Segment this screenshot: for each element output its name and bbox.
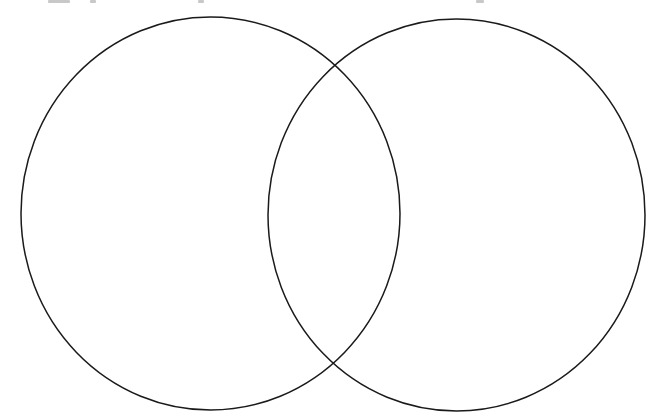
venn-diagram <box>0 0 662 419</box>
venn-circle-left <box>21 17 400 410</box>
venn-circle-right <box>268 19 645 411</box>
clipped-text-fragment <box>90 0 96 3</box>
clipped-text-fragment <box>48 0 70 3</box>
clipped-text-fragments <box>0 0 662 6</box>
clipped-text-fragment <box>476 0 484 3</box>
clipped-text-fragment <box>198 0 204 3</box>
